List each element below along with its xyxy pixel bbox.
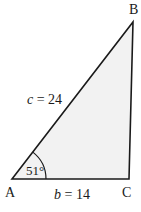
triangle-diagram: 51° A B C c = 24 b = 14 (0, 0, 141, 212)
side-b-label: b = 14 (54, 187, 90, 202)
side-b-eq: = 14 (61, 187, 90, 202)
side-c-eq: = 24 (33, 92, 62, 107)
vertex-b-label: B (129, 2, 138, 17)
side-b-var: b (54, 187, 61, 202)
angle-a-label: 51° (26, 163, 44, 178)
vertex-a-label: A (5, 185, 16, 200)
side-c-label: c = 24 (27, 92, 62, 107)
vertex-c-label: C (122, 185, 131, 200)
